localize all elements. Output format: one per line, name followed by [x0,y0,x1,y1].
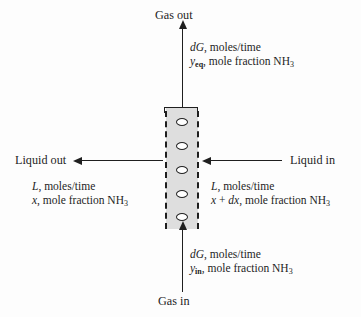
liquid-in-composition-operator: + [216,194,228,206]
arrowhead-left-icon [202,157,211,165]
liquid-in-composition-rest: , mole fraction NH [239,194,326,206]
gas-in-flow-units: , moles/time [204,248,261,260]
column-top-cap [164,107,198,113]
liquid-out-composition-line: x, mole fraction NH3 [32,193,128,211]
gas-in-flow-line: dG, moles/time [190,247,293,261]
gas-in-annotation: dG, moles/time yin, mole fraction NH3 [190,247,293,279]
arrowhead-up-icon [179,221,187,230]
liquid-in-flow-line: L, moles/time [211,179,330,193]
gas-in-label: Gas in [158,294,189,308]
column-wall-right [197,111,199,229]
packing-element [176,166,188,174]
liquid-in-label: Liquid in [290,153,335,167]
packing-element [176,190,188,198]
liquid-out-flow-line: L, moles/time [32,179,128,193]
gas-out-species-subscript: 3 [290,60,294,69]
liquid-in-composition-line: x + dx, mole fraction NH3 [211,193,330,211]
liquid-in-flow-units: , moles/time [217,180,274,192]
gas-in-composition-rest: , mole fraction NH [202,262,289,274]
gas-in-composition-subscript: in [195,267,202,276]
liquid-out-composition-rest: , mole fraction NH [37,194,124,206]
gas-out-annotation: dG, moles/time yeq, mole fraction NH3 [190,40,294,72]
gas-out-label: Gas out [155,8,193,22]
gas-out-composition-subscript: eq [195,60,203,69]
liquid-out-annotation: L, moles/time x, mole fraction NH3 [32,179,128,211]
gas-in-flow-symbol: dG [190,248,204,260]
liquid-in-species-subscript: 3 [326,199,330,208]
gas-out-composition-line: yeq, mole fraction NH3 [190,54,294,72]
gas-in-species-subscript: 3 [289,267,293,276]
packing-element [176,118,188,126]
gas-out-flow-line: dG, moles/time [190,40,294,54]
gas-out-flow-units: , moles/time [204,41,261,53]
gas-out-composition-rest: , mole fraction NH [203,55,290,67]
liquid-out-flow-units: , moles/time [38,180,95,192]
packing-element [176,142,188,150]
liquid-out-species-subscript: 3 [124,199,128,208]
arrowhead-left-icon [73,157,82,165]
column-wall-left [165,111,167,229]
liquid-in-annotation: L, moles/time x + dx, mole fraction NH3 [211,179,330,211]
liquid-in-composition-differential: dx [228,194,239,206]
packing-element [176,213,188,221]
gas-in-composition-line: yin, mole fraction NH3 [190,261,293,279]
liquid-out-label: Liquid out [15,153,66,167]
gas-out-flow-symbol: dG [190,41,204,53]
gas-absorption-column-diagram: Gas out dG, moles/time yeq, mole fractio… [0,0,361,317]
absorption-column [163,107,201,229]
